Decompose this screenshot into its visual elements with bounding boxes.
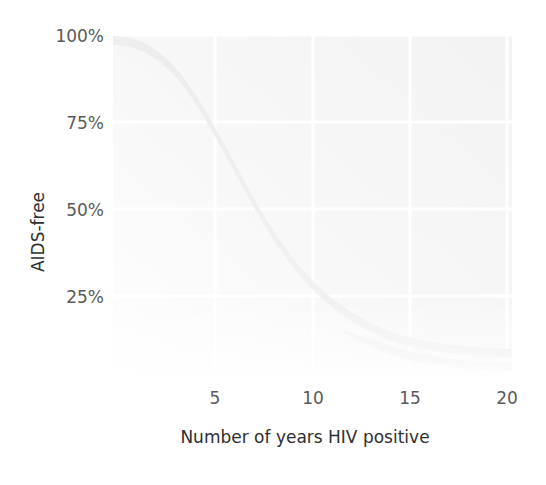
x-axis-title: Number of years HIV positive (180, 427, 429, 447)
ytick-label-75: 75% (66, 113, 104, 133)
xtick-label-5: 5 (210, 388, 221, 408)
xtick-label-10: 10 (302, 388, 324, 408)
ytick-label-100: 100% (55, 26, 104, 46)
y-axis-title: AIDS-free (28, 192, 48, 272)
ytick-label-50: 50% (66, 200, 104, 220)
aids-free-survival-chart: 100% 75% 50% 25% 5 10 15 20 Number of ye… (0, 0, 546, 485)
xtick-label-20: 20 (496, 388, 518, 408)
scan-fade-overlay-bottom (113, 300, 512, 380)
ytick-label-25: 25% (66, 287, 104, 307)
xtick-label-15: 15 (399, 388, 421, 408)
chart-figure: 100% 75% 50% 25% 5 10 15 20 Number of ye… (0, 0, 546, 485)
